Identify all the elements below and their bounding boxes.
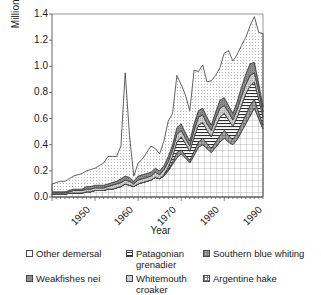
y-tick-label: 0.8	[18, 87, 48, 97]
legend-item: Southern blue whiting	[203, 248, 316, 270]
legend-swatch-hlines-icon	[126, 250, 133, 257]
legend-label: Southern blue whiting	[213, 248, 304, 259]
legend-swatch-dots-icon	[26, 250, 33, 257]
chart-legend: Other demersalPatagonian grenadierSouthe…	[26, 248, 316, 295]
y-tick-label: 0.4	[18, 140, 48, 150]
y-tick-label: 1.2	[18, 35, 48, 45]
legend-label: Argentine hake	[213, 273, 277, 284]
legend-label: Weakfishes nei	[36, 273, 100, 284]
legend-swatch-dark-grid-icon	[203, 250, 210, 257]
y-tick-label: 0.6	[18, 114, 48, 124]
legend-swatch-mid-grey-icon	[26, 275, 33, 282]
y-tick-label: 1.0	[18, 61, 48, 71]
legend-item: Patagonian grenadier	[126, 248, 203, 270]
legend-label: Patagonian grenadier	[136, 248, 203, 270]
legend-item: Other demersal	[26, 248, 126, 270]
legend-item: Weakfishes nei	[26, 273, 126, 295]
legend-item: Argentine hake	[203, 273, 316, 295]
legend-swatch-grid-icon	[203, 275, 210, 282]
y-tick-label: 0.0	[18, 192, 48, 202]
legend-label: Whitemouth croaker	[136, 273, 203, 295]
x-axis-title: Year	[0, 225, 321, 236]
legend-label: Other demersal	[36, 248, 101, 259]
y-tick-label: 1.4	[18, 9, 48, 19]
y-tick-label: 0.2	[18, 166, 48, 176]
legend-swatch-light-grey-icon	[126, 275, 133, 282]
legend-item: Whitemouth croaker	[126, 273, 203, 295]
